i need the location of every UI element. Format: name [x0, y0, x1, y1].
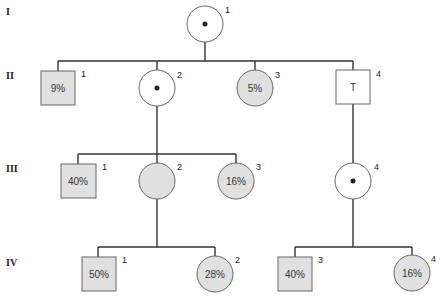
individual-number: 1 [81, 69, 86, 79]
generation-label-III: III [6, 163, 18, 174]
risk-percentage: 28% [205, 269, 225, 280]
individual-number: 2 [177, 70, 182, 80]
risk-percentage: 9% [51, 83, 66, 94]
individual-II-2: 2 [139, 70, 182, 106]
individual-III-4: 4 [335, 162, 379, 199]
individual-III-3: 16% 3 [218, 162, 261, 199]
risk-percentage: 5% [248, 83, 263, 94]
individual-marker: T [350, 82, 356, 93]
individual-number: 3 [256, 162, 261, 172]
individual-number: 2 [177, 162, 182, 172]
individual-number: 2 [235, 255, 240, 265]
individual-number: 1 [122, 255, 127, 265]
individual-II-1: 9% 1 [41, 69, 86, 105]
female-circle [139, 163, 175, 199]
individual-IV-3: 40% 3 [278, 255, 323, 291]
carrier-dot-icon [351, 179, 356, 184]
individual-IV-1: 50% 1 [82, 255, 127, 291]
risk-percentage: 40% [285, 269, 305, 280]
risk-percentage: 16% [402, 268, 422, 279]
generation-label-I: I [6, 6, 10, 17]
individual-number: 1 [225, 5, 230, 15]
individual-number: 4 [376, 69, 381, 79]
individual-number: 4 [431, 254, 436, 264]
individual-II-4: T 4 [336, 69, 381, 104]
individual-number: 1 [102, 162, 107, 172]
individual-number: 4 [374, 162, 379, 172]
individual-IV-2: 28% 2 [197, 255, 240, 292]
risk-percentage: 16% [226, 176, 246, 187]
carrier-dot-icon [155, 86, 160, 91]
risk-percentage: 50% [89, 269, 109, 280]
risk-percentage: 40% [68, 176, 88, 187]
individual-III-1: 40% 1 [61, 162, 107, 198]
carrier-dot-icon [203, 22, 208, 27]
generation-label-II: II [6, 70, 14, 81]
individual-II-3: 5% 3 [237, 70, 280, 106]
individual-IV-4: 16% 4 [394, 254, 436, 291]
generation-label-IV: IV [6, 257, 18, 268]
pedigree-diagram: I II III IV 1 9% [0, 0, 440, 297]
individual-I-1: 1 [187, 5, 230, 42]
individual-number: 3 [275, 70, 280, 80]
individual-number: 3 [318, 255, 323, 265]
individual-III-2: 2 [139, 162, 182, 199]
